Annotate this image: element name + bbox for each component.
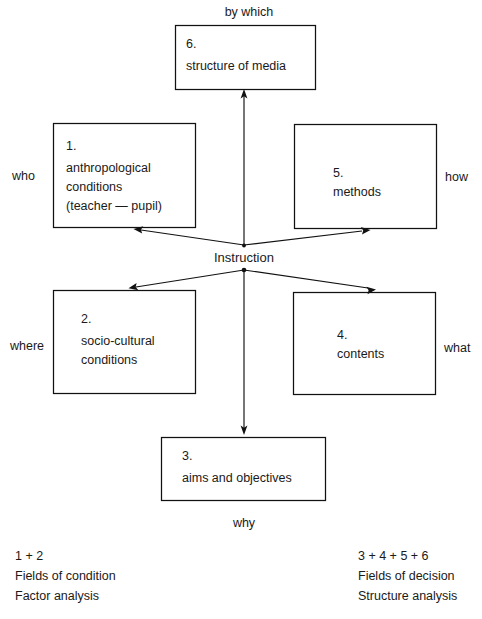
node-4-line-1: contents: [337, 347, 384, 361]
node-5-line-1: methods: [333, 185, 381, 199]
node-2-line-2: conditions: [81, 353, 137, 367]
node-6-line-1: structure of media: [186, 59, 286, 73]
caption-left-name: Fields of condition: [15, 569, 116, 583]
edge-label-top: by which: [225, 5, 274, 19]
hub-dot-lower: [242, 268, 247, 273]
caption-right-method: Structure analysis: [358, 589, 457, 603]
node-2-number: 2.: [81, 312, 91, 326]
node-3-number: 3.: [182, 449, 192, 463]
node-box-3[interactable]: [162, 438, 326, 501]
caption-left-method: Factor analysis: [15, 589, 99, 603]
node-2-line-1: socio-cultural: [81, 334, 155, 348]
connector-center-to-node2: [136, 270, 244, 287]
center-label-instruction: Instruction: [214, 250, 274, 265]
node-box-5[interactable]: [295, 125, 437, 229]
connector-center-to-node1: [141, 230, 244, 245]
edge-label-where: where: [9, 339, 44, 353]
node-1-line-3: (teacher — pupil): [66, 199, 162, 213]
connector-center-to-node4: [244, 270, 368, 288]
node-3-line-1: aims and objectives: [182, 471, 292, 485]
hub-dot-upper: [242, 244, 246, 248]
connector-center-to-node5: [244, 231, 362, 245]
edge-label-what: what: [443, 341, 471, 355]
diagram-canvas: by which 6. structure of media 1. anthro…: [0, 0, 482, 619]
node-4-number: 4.: [337, 328, 347, 342]
node-1-line-2: conditions: [66, 180, 122, 194]
node-5-number: 5.: [333, 166, 343, 180]
caption-left-members: 1 + 2: [15, 549, 43, 563]
node-box-4[interactable]: [294, 293, 436, 395]
node-6-number: 6.: [186, 37, 196, 51]
node-1-number: 1.: [66, 139, 76, 153]
instruction-model-diagram: by which 6. structure of media 1. anthro…: [0, 0, 482, 619]
node-1-line-1: anthropological: [66, 161, 151, 175]
caption-right-members: 3 + 4 + 5 + 6: [358, 549, 429, 563]
edge-label-bottom: why: [232, 516, 256, 530]
edge-label-who: who: [11, 169, 35, 183]
caption-right-name: Fields of decision: [358, 569, 455, 583]
node-box-6[interactable]: [176, 26, 316, 90]
edge-label-how: how: [445, 170, 469, 184]
